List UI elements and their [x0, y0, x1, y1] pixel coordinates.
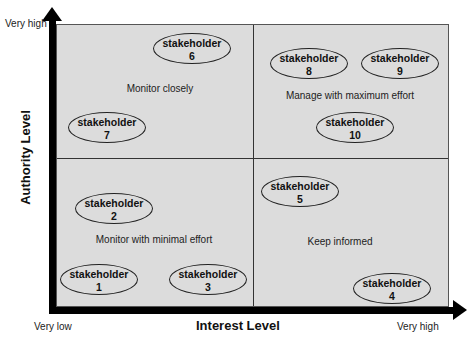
- stakeholder-6: stakeholder6: [153, 33, 231, 64]
- y-axis-title: Authority Level: [18, 103, 33, 213]
- vertical-divider: [253, 25, 254, 306]
- x-high-label: Very high: [397, 321, 439, 332]
- stakeholder-3: stakeholder3: [169, 264, 247, 295]
- quadrant-label-bottom-right: Keep informed: [307, 236, 372, 247]
- stakeholder-10: stakeholder10: [316, 112, 394, 143]
- quadrant-label-top-right: Manage with maximum effort: [286, 90, 414, 101]
- quadrant-label-bottom-left: Monitor with minimal effort: [96, 234, 213, 245]
- stakeholder-2: stakeholder2: [75, 193, 153, 224]
- stakeholder-1: stakeholder1: [60, 264, 138, 295]
- stakeholder-5: stakeholder5: [261, 176, 339, 207]
- stakeholder-7: stakeholder7: [68, 112, 146, 143]
- x-axis: [49, 307, 455, 314]
- y-axis: [49, 20, 56, 314]
- stakeholder-4: stakeholder4: [353, 273, 431, 304]
- x-axis-title: Interest Level: [196, 318, 280, 333]
- horizontal-divider: [57, 158, 448, 159]
- stakeholder-9: stakeholder9: [361, 48, 439, 79]
- quadrant-label-top-left: Monitor closely: [127, 83, 194, 94]
- y-high-label: Very high: [5, 18, 47, 29]
- stakeholder-8: stakeholder8: [270, 48, 348, 79]
- x-low-label: Very low: [34, 321, 72, 332]
- x-axis-arrow-icon: [453, 300, 467, 320]
